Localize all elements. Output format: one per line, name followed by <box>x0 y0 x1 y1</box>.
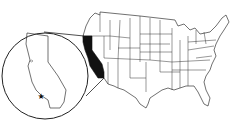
us-map-figure: ★ <box>0 0 240 126</box>
inset-circle <box>2 33 88 119</box>
star-marker-icon: ★ <box>38 92 45 101</box>
state-borders <box>83 15 216 92</box>
connector-line-bottom <box>86 78 104 96</box>
